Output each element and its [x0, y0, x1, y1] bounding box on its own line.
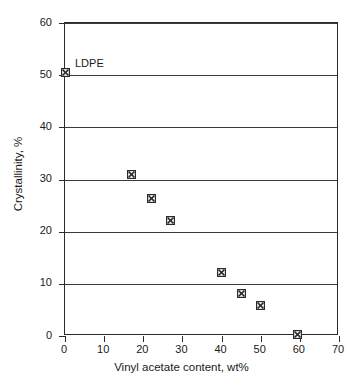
data-point-marker [256, 301, 265, 310]
data-point-marker [293, 330, 302, 339]
x-tick-50 [261, 336, 262, 342]
chart-figure: LDPE 0102030405060 010203040506070 Vinyl… [0, 0, 363, 384]
y-tick-label-0: 0 [0, 330, 52, 341]
data-point-marker [61, 68, 70, 77]
x-axis-title: Vinyl acetate content, wt% [0, 361, 363, 373]
y-tick-label-50: 50 [0, 69, 52, 80]
data-point-marker [217, 268, 226, 277]
gridline-y-10 [65, 284, 337, 285]
gridline-y-40 [65, 127, 337, 128]
y-tick-10 [59, 284, 65, 285]
x-tick-70 [339, 336, 340, 342]
x-tick-label-50: 50 [240, 344, 280, 355]
x-tick-label-0: 0 [44, 344, 84, 355]
data-point-marker [166, 216, 175, 225]
x-tick-label-10: 10 [83, 344, 123, 355]
y-tick-40 [59, 127, 65, 128]
gridline-y-50 [65, 75, 337, 76]
gridline-y-30 [65, 180, 337, 181]
data-point-marker [237, 289, 246, 298]
data-point-marker [127, 170, 136, 179]
x-tick-20 [143, 336, 144, 342]
y-tick-label-20: 20 [0, 225, 52, 236]
x-tick-label-20: 20 [122, 344, 162, 355]
gridline-y-60 [65, 23, 337, 24]
y-tick-20 [59, 232, 65, 233]
data-point-marker [147, 194, 156, 203]
y-axis-title: Crystallinity, % [12, 94, 24, 254]
x-tick-40 [222, 336, 223, 342]
x-tick-label-40: 40 [201, 344, 241, 355]
x-tick-10 [104, 336, 105, 342]
plot-area: LDPE [64, 22, 338, 335]
x-tick-label-60: 60 [279, 344, 319, 355]
y-tick-60 [59, 23, 65, 24]
y-tick-label-10: 10 [0, 277, 52, 288]
y-tick-label-40: 40 [0, 121, 52, 132]
gridline-y-20 [65, 232, 337, 233]
x-tick-label-30: 30 [161, 344, 201, 355]
y-tick-30 [59, 180, 65, 181]
y-tick-label-60: 60 [0, 17, 52, 28]
x-tick-0 [65, 336, 66, 342]
x-tick-label-70: 70 [318, 344, 358, 355]
x-tick-30 [182, 336, 183, 342]
y-tick-label-30: 30 [0, 173, 52, 184]
annotation-ldpe: LDPE [75, 58, 104, 69]
